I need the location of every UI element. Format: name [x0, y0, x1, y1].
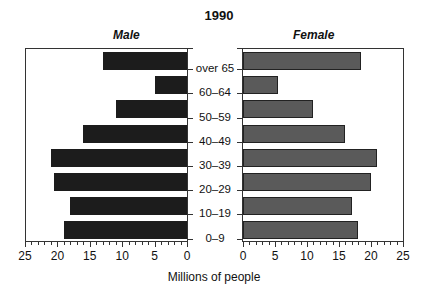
x-tick [262, 241, 263, 245]
category-tick [187, 118, 193, 119]
age-group-label: 10–19 [185, 207, 245, 219]
x-tick [294, 241, 295, 245]
x-tick-label: 10 [110, 249, 134, 263]
x-tick [174, 241, 175, 245]
male-bar [116, 100, 187, 118]
female-bar [243, 76, 278, 94]
x-tick [288, 241, 289, 245]
x-tick [38, 241, 39, 245]
x-tick-label: 20 [359, 249, 383, 263]
x-tick [377, 241, 378, 245]
female-bar [243, 52, 361, 70]
age-group-label: 60–64 [185, 86, 245, 98]
x-tick [77, 241, 78, 245]
category-tick [187, 48, 193, 49]
x-tick [155, 241, 156, 247]
x-tick [326, 241, 327, 245]
category-tick [237, 48, 243, 49]
x-tick [307, 241, 308, 247]
x-tick [148, 241, 149, 245]
category-tick [237, 190, 243, 191]
female-bar [243, 100, 313, 118]
category-tick [187, 214, 193, 215]
x-tick [384, 241, 385, 245]
category-tick [187, 142, 193, 143]
category-tick [187, 69, 193, 70]
x-tick [339, 241, 340, 247]
x-tick [187, 241, 188, 247]
x-tick [320, 241, 321, 245]
x-tick-label: 20 [45, 249, 69, 263]
category-tick [187, 166, 193, 167]
female-bar [243, 221, 358, 239]
x-tick [249, 241, 250, 245]
female-bar [243, 125, 345, 143]
x-tick [161, 241, 162, 245]
age-group-label: 40–49 [185, 135, 245, 147]
x-tick [243, 241, 244, 247]
x-tick [44, 241, 45, 245]
category-tick [237, 93, 243, 94]
x-tick [103, 241, 104, 245]
category-tick [187, 239, 193, 240]
age-group-label: 30–39 [185, 159, 245, 171]
x-tick-label: 0 [175, 249, 199, 263]
x-tick [345, 241, 346, 245]
male-bar [103, 52, 187, 70]
x-tick [168, 241, 169, 245]
x-tick [301, 241, 302, 245]
category-tick [237, 239, 243, 240]
x-tick [281, 241, 282, 245]
x-tick [96, 241, 97, 245]
age-group-label: 50–59 [185, 111, 245, 123]
x-tick [333, 241, 334, 245]
x-tick-label: 10 [295, 249, 319, 263]
x-tick [116, 241, 117, 245]
x-tick [122, 241, 123, 247]
female-panel-label: Female [293, 28, 334, 42]
x-tick-label: 25 [13, 249, 37, 263]
male-bar [83, 125, 187, 143]
x-tick-label: 5 [143, 249, 167, 263]
x-tick [371, 241, 372, 247]
x-tick [403, 241, 404, 247]
female-bar [243, 197, 352, 215]
male-bar [51, 149, 187, 167]
age-group-label: over 65 [185, 62, 245, 74]
male-bar [54, 173, 187, 191]
x-tick [64, 241, 65, 245]
category-tick [237, 118, 243, 119]
x-tick [256, 241, 257, 245]
age-group-label: 0–9 [185, 232, 245, 244]
male-panel-label: Male [113, 28, 140, 42]
x-tick [109, 241, 110, 245]
x-tick [269, 241, 270, 245]
x-tick [397, 241, 398, 245]
x-tick [358, 241, 359, 245]
category-tick [237, 69, 243, 70]
x-tick [313, 241, 314, 245]
x-tick [25, 241, 26, 247]
category-tick [187, 93, 193, 94]
female-bar [243, 149, 377, 167]
category-tick [187, 190, 193, 191]
x-axis-label: Millions of people [0, 270, 428, 284]
x-tick-label: 15 [78, 249, 102, 263]
x-tick [51, 241, 52, 245]
x-tick [135, 241, 136, 245]
x-tick [129, 241, 130, 245]
male-bar [155, 76, 187, 94]
x-tick [275, 241, 276, 247]
x-tick-label: 15 [327, 249, 351, 263]
x-tick [365, 241, 366, 245]
x-tick-label: 0 [231, 249, 255, 263]
category-tick [237, 214, 243, 215]
age-group-label: 20–29 [185, 183, 245, 195]
male-bar [64, 221, 187, 239]
x-tick [352, 241, 353, 245]
x-tick [142, 241, 143, 245]
x-tick-label: 25 [391, 249, 415, 263]
x-tick [83, 241, 84, 245]
category-tick [237, 166, 243, 167]
x-tick [90, 241, 91, 247]
